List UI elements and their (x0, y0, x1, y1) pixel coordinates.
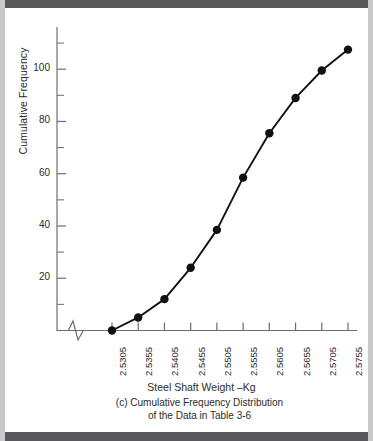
x-tick-label: 2.5655 (301, 347, 312, 376)
data-point (186, 264, 194, 272)
data-point (265, 129, 273, 137)
x-tick-label: 2.5355 (143, 347, 154, 376)
y-axis-title: Cumulative Frequency (17, 16, 29, 186)
data-point (291, 94, 299, 102)
x-tick-label: 2.5755 (353, 347, 364, 376)
y-tick-label: 20 (20, 271, 50, 282)
data-point (344, 45, 352, 53)
data-point (239, 173, 247, 181)
data-point (160, 295, 168, 303)
chart-svg (0, 0, 373, 441)
x-tick-label: 2.5705 (327, 347, 338, 376)
x-axis-title-text: Steel Shaft Weight –Kg (117, 381, 255, 393)
x-tick-label: 2.5605 (274, 347, 285, 376)
x-tick-label: 2.5555 (248, 347, 259, 376)
data-point (134, 313, 142, 321)
data-point (318, 66, 326, 74)
x-axis-title: Steel Shaft Weight –Kg (0, 381, 373, 393)
caption-line-1: (c) Cumulative Frequency Distribution (0, 396, 373, 409)
y-tick-label: 40 (20, 219, 50, 230)
figure-caption: (c) Cumulative Frequency Distribution of… (0, 396, 373, 422)
cumulative-frequency-line (112, 50, 348, 331)
x-tick-label: 2.5405 (169, 347, 180, 376)
plot-area: 20406080100 2.53052.53552.54052.54552.55… (0, 0, 373, 441)
data-point (108, 326, 116, 334)
data-point (213, 226, 221, 234)
x-tick-label: 2.5505 (222, 347, 233, 376)
x-tick-marks (112, 323, 348, 331)
caption-line-2: of the Data in Table 3-6 (0, 409, 373, 422)
x-tick-label: 2.5455 (196, 347, 207, 376)
x-tick-label: 2.5305 (117, 347, 128, 376)
cumulative-frequency-points (108, 45, 352, 334)
figure-frame: 20406080100 2.53052.53552.54052.54552.55… (0, 0, 373, 441)
y-tick-marks (57, 43, 66, 304)
